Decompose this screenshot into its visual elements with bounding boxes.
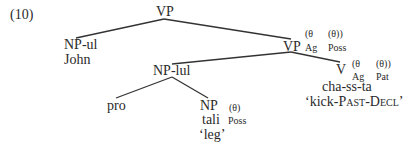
edge-np-lul-to-pro xyxy=(116,77,172,98)
edge-vp-to-np-ul xyxy=(76,19,164,38)
gloss-post: ’ xyxy=(399,94,403,109)
gloss-decl: Decl xyxy=(370,94,399,109)
gloss-kick-past-decl: ‘kick-Past-Decl’ xyxy=(305,95,403,109)
vp-theta-2: (θ)) xyxy=(328,29,343,39)
leaf-cha-ss-ta: cha-ss-ta xyxy=(322,80,372,94)
v-role-pat: Pat xyxy=(376,72,389,82)
leaf-john: John xyxy=(64,53,90,67)
gloss-pre: ‘kick- xyxy=(305,94,338,109)
np-theta: (θ) xyxy=(229,103,240,113)
gloss-leg: ‘leg’ xyxy=(199,128,225,142)
gloss-past: Past xyxy=(338,94,365,109)
node-np: NP xyxy=(200,99,218,113)
vp-role-poss: Poss xyxy=(328,43,346,53)
v-theta-1: (θ xyxy=(352,59,360,69)
node-np-lul: NP-lul xyxy=(153,64,190,78)
vp-role-ag: Ag xyxy=(305,43,317,53)
v-theta-2: (θ)) xyxy=(376,59,391,69)
node-v: V xyxy=(336,63,346,77)
np-role-poss: Poss xyxy=(228,116,246,126)
node-pro: pro xyxy=(107,99,126,113)
node-vp-root: VP xyxy=(156,5,174,19)
edge-np-lul-to-np xyxy=(172,77,208,98)
node-np-ul: NP-ul xyxy=(64,38,97,52)
leaf-tali: tali xyxy=(202,113,220,127)
example-number: (10) xyxy=(10,8,33,22)
node-vp-inner: VP xyxy=(283,40,301,54)
vp-theta-1: (θ xyxy=(305,29,313,39)
edge-vp-to-vp xyxy=(164,19,291,39)
